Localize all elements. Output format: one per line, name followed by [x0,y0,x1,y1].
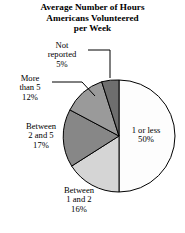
pie-label-between-1-and-2-value: 16% [48,205,110,214]
pie-chart: Average Number of Hours Americans Volunt… [0,0,185,233]
pie-label-more-than-5-value: 12% [4,93,56,102]
pie-label-more-than-5: More than 5 12% [4,74,56,102]
pie-label-1-or-less: 1 or less 50% [118,126,174,145]
pie-label-not-reported-value: 5% [36,60,88,69]
pie-label-between-1-and-2: Between 1 and 2 16% [48,186,110,214]
pie-label-1-or-less-value: 50% [118,135,174,144]
pie-label-between-2-and-5-value: 17% [12,141,70,150]
leader-line-not-reported [88,50,110,78]
pie-label-between-2-and-5: Between 2 and 5 17% [12,122,70,150]
pie-label-not-reported: Not reported 5% [36,41,88,69]
